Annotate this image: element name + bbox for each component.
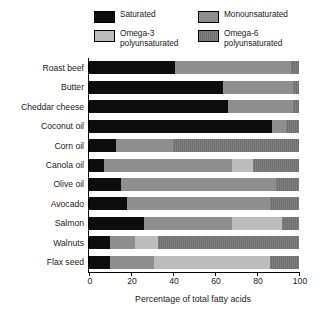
bar-segment-mono	[272, 120, 287, 133]
bar-segment-o6	[270, 197, 299, 210]
bar-segment-mono	[223, 81, 292, 94]
bar-segment-mono	[110, 256, 154, 269]
category-label: Corn oil	[54, 141, 84, 150]
legend-label-saturated: Saturated	[120, 10, 156, 20]
bar-row: Corn oil	[89, 139, 299, 152]
bar-segment-mono	[116, 139, 173, 152]
bar-segment-mono	[175, 61, 291, 74]
bar-segment-sat	[89, 100, 228, 113]
category-label: Roast beef	[42, 63, 84, 72]
category-label: Avocado	[51, 200, 84, 209]
legend-swatch-omega3	[94, 30, 115, 42]
chart-legend: Saturated Monounsaturated Omega-3 polyun…	[94, 10, 310, 54]
bar-row: Salmon	[89, 217, 299, 230]
bar-row: Butter	[89, 81, 299, 94]
stacked-bar	[89, 120, 299, 133]
stacked-bar	[89, 236, 299, 249]
legend-swatch-saturated	[94, 11, 115, 23]
category-label: Olive oil	[53, 180, 84, 189]
bar-segment-o3	[232, 217, 282, 230]
x-axis-label: Percentage of total fatty acids	[88, 294, 298, 304]
legend-label-monounsaturated: Monounsaturated	[224, 10, 288, 20]
bar-row: Walnuts	[89, 236, 299, 249]
stacked-bar	[89, 61, 299, 74]
x-axis-tick-label: 100	[293, 277, 307, 286]
bar-segment-sat	[89, 159, 104, 172]
bar-segment-sat	[89, 178, 121, 191]
legend-item-saturated: Saturated	[94, 10, 198, 23]
bar-segment-o6	[173, 139, 299, 152]
bar-segment-mono	[127, 197, 270, 210]
bar-segment-o6	[293, 100, 299, 113]
legend-item-monounsaturated: Monounsaturated	[198, 10, 310, 23]
bar-segment-sat	[89, 120, 272, 133]
category-label: Coconut oil	[41, 122, 84, 131]
x-axis-tick: 100	[299, 272, 300, 276]
bar-row: Coconut oil	[89, 120, 299, 133]
category-label: Flax seed	[47, 258, 84, 267]
bar-segment-sat	[89, 236, 110, 249]
x-axis-tick-label: 0	[88, 277, 93, 286]
stacked-bar	[89, 159, 299, 172]
x-axis-tick: 80	[257, 272, 258, 276]
legend-label-omega3: Omega-3 polyunsaturated	[120, 29, 178, 48]
bar-segment-sat	[89, 81, 223, 94]
bar-segment-sat	[89, 217, 144, 230]
legend-swatch-monounsaturated	[198, 11, 219, 23]
stacked-bar	[89, 139, 299, 152]
bar-segment-mono	[144, 217, 232, 230]
category-label: Cheddar cheese	[21, 102, 84, 111]
x-axis-tick-label: 40	[169, 277, 179, 286]
bar-segment-mono	[228, 100, 293, 113]
bar-segment-sat	[89, 256, 110, 269]
bar-segment-mono	[110, 236, 135, 249]
bar-segment-mono	[121, 178, 276, 191]
stacked-bar	[89, 178, 299, 191]
stacked-bar	[89, 217, 299, 230]
legend-item-omega3: Omega-3 polyunsaturated	[94, 29, 198, 48]
bar-row: Roast beef	[89, 61, 299, 74]
bar-row: Olive oil	[89, 178, 299, 191]
x-axis-tick-label: 20	[127, 277, 137, 286]
category-label: Salmon	[55, 219, 84, 228]
stacked-bar	[89, 100, 299, 113]
bar-row: Cheddar cheese	[89, 100, 299, 113]
bar-segment-mono	[104, 159, 232, 172]
bar-segment-sat	[89, 61, 175, 74]
bar-segment-o6	[253, 159, 299, 172]
stacked-bar	[89, 256, 299, 269]
bar-segment-sat	[89, 139, 116, 152]
bar-segment-o6	[286, 120, 299, 133]
x-axis-tick: 0	[89, 272, 90, 276]
bar-row: Avocado	[89, 197, 299, 210]
bar-row: Flax seed	[89, 256, 299, 269]
bar-segment-o3	[232, 159, 253, 172]
legend-item-omega6: Omega-6 polyunsaturated	[198, 29, 310, 48]
chart-plot-area: Roast beefButterCheddar cheeseCoconut oi…	[88, 58, 299, 273]
bar-segment-o6	[282, 217, 299, 230]
bar-segment-o3	[135, 236, 158, 249]
x-axis-tick: 60	[215, 272, 216, 276]
bar-row: Canola oil	[89, 159, 299, 172]
bar-segment-o6	[293, 81, 299, 94]
bar-segment-o3	[154, 256, 270, 269]
bar-segment-o6	[270, 256, 299, 269]
category-label: Butter	[61, 83, 84, 92]
stacked-bar	[89, 197, 299, 210]
category-label: Walnuts	[53, 239, 84, 248]
x-axis-tick-label: 60	[211, 277, 221, 286]
bar-segment-sat	[89, 197, 127, 210]
bar-segment-o6	[291, 61, 299, 74]
stacked-bar	[89, 81, 299, 94]
category-label: Canola oil	[46, 161, 84, 170]
x-axis-tick: 20	[131, 272, 132, 276]
x-axis-tick: 40	[173, 272, 174, 276]
legend-label-omega6: Omega-6 polyunsaturated	[224, 29, 282, 48]
bar-segment-o6	[158, 236, 299, 249]
bar-segment-o6	[276, 178, 299, 191]
x-axis-tick-label: 80	[253, 277, 263, 286]
chart-plot-wrapper: Roast beefButterCheddar cheeseCoconut oi…	[0, 56, 320, 313]
legend-swatch-omega6	[198, 30, 219, 42]
